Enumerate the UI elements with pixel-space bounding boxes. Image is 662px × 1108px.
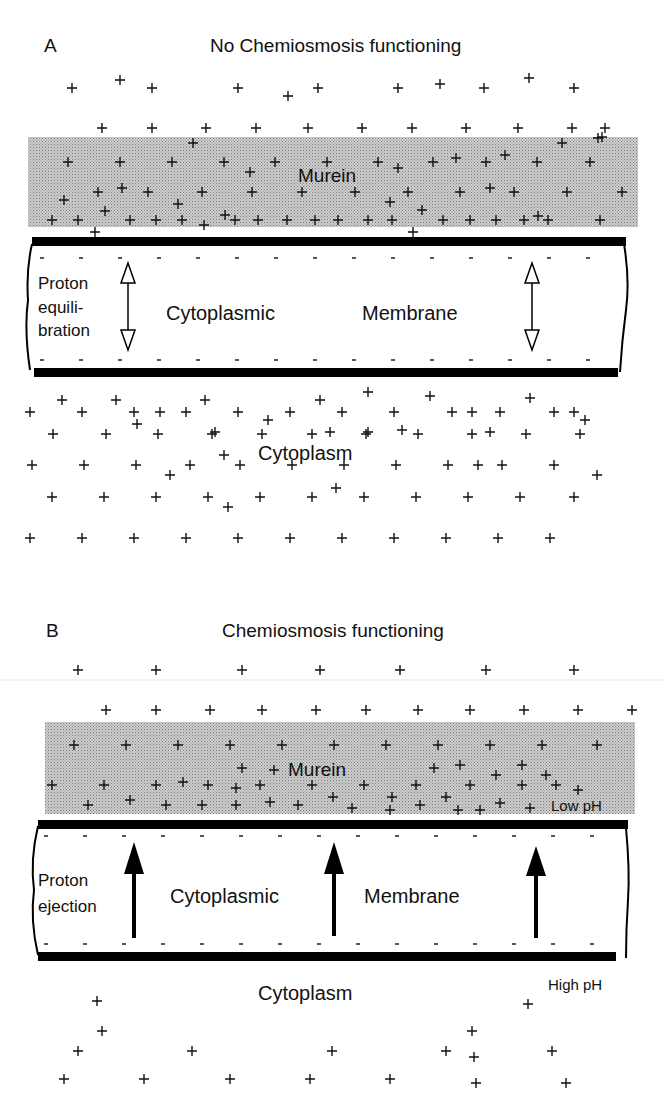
proton-plus-icon bbox=[425, 391, 435, 401]
proton-plus-icon bbox=[411, 492, 421, 502]
proton-plus-icon bbox=[447, 407, 457, 417]
proton-plus-icon bbox=[580, 415, 590, 425]
proton-plus-icon bbox=[25, 533, 35, 543]
proton-plus-icon bbox=[97, 123, 107, 133]
proton-plus-icon bbox=[151, 492, 161, 502]
membrane-label-cytoplasmic: Cytoplasmic bbox=[170, 885, 279, 907]
proton-plus-icon bbox=[77, 533, 87, 543]
proton-plus-icon bbox=[497, 460, 507, 470]
proton-plus-icon bbox=[627, 705, 637, 715]
proton-plus-icon bbox=[79, 460, 89, 470]
proton-plus-icon bbox=[592, 470, 602, 480]
proton-plus-icon bbox=[413, 705, 423, 715]
proton-plus-icon bbox=[200, 395, 210, 405]
panel-b: B Chemiosmosis functioning Murein Low pH… bbox=[33, 620, 637, 1088]
proton-plus-icon bbox=[569, 665, 579, 675]
proton-plus-icon bbox=[523, 999, 533, 1009]
proton-plus-icon bbox=[59, 1074, 69, 1084]
murein-label: Murein bbox=[288, 759, 346, 780]
murein-label: Murein bbox=[298, 165, 356, 186]
proton-plus-icon bbox=[521, 429, 531, 439]
proton-plus-icon bbox=[413, 429, 423, 439]
proton-plus-icon bbox=[101, 705, 111, 715]
proton-plus-icon bbox=[48, 429, 58, 439]
proton-plus-icon bbox=[235, 460, 245, 470]
proton-plus-icon bbox=[285, 407, 295, 417]
double-arrow-icon bbox=[121, 263, 135, 350]
proton-plus-icon bbox=[469, 1052, 479, 1062]
proton-plus-icon bbox=[147, 123, 157, 133]
cytoplasmic-membrane bbox=[33, 820, 629, 961]
protons-outside bbox=[73, 665, 637, 715]
proton-plus-icon bbox=[307, 492, 317, 502]
proton-plus-icon bbox=[327, 1046, 337, 1056]
proton-plus-icon bbox=[111, 395, 121, 405]
proton-plus-icon bbox=[385, 1074, 395, 1084]
proton-plus-icon bbox=[485, 427, 495, 437]
up-arrow-icon bbox=[526, 846, 546, 938]
proton-plus-icon bbox=[569, 83, 579, 93]
proton-plus-icon bbox=[461, 123, 471, 133]
proton-plus-icon bbox=[519, 705, 529, 715]
proton-plus-icon bbox=[325, 427, 335, 437]
proton-plus-icon bbox=[132, 419, 142, 429]
proton-plus-icon bbox=[257, 705, 267, 715]
panel-a-letter: A bbox=[44, 35, 57, 56]
proton-plus-icon bbox=[90, 227, 100, 237]
high-ph-label: High pH bbox=[548, 976, 602, 993]
proton-plus-icon bbox=[115, 75, 125, 85]
proton-plus-icon bbox=[357, 123, 367, 133]
proton-plus-icon bbox=[337, 407, 347, 417]
proton-plus-icon bbox=[151, 705, 161, 715]
cytoplasm-label: Cytoplasm bbox=[258, 442, 352, 464]
panel-b-title: Chemiosmosis functioning bbox=[222, 620, 444, 641]
proton-plus-icon bbox=[315, 395, 325, 405]
proton-plus-icon bbox=[441, 1046, 451, 1056]
proton-plus-icon bbox=[569, 407, 579, 417]
proton-plus-icon bbox=[92, 996, 102, 1006]
proton-plus-icon bbox=[547, 1046, 557, 1056]
proton-plus-icon bbox=[131, 460, 141, 470]
proton-plus-icon bbox=[393, 83, 403, 93]
cytoplasm-label: Cytoplasm bbox=[258, 982, 352, 1004]
proton-plus-icon bbox=[600, 123, 610, 133]
proton-plus-icon bbox=[389, 533, 399, 543]
proton-plus-icon bbox=[181, 407, 191, 417]
proton-plus-icon bbox=[545, 533, 555, 543]
proton-plus-icon bbox=[389, 407, 399, 417]
proton-plus-icon bbox=[395, 665, 405, 675]
proton-plus-icon bbox=[151, 665, 161, 675]
proton-plus-icon bbox=[257, 429, 267, 439]
proton-plus-icon bbox=[283, 91, 293, 101]
side-label-line-2: equili- bbox=[38, 298, 83, 317]
panel-a-title: No Chemiosmosis functioning bbox=[210, 35, 461, 56]
side-label-line-1: Proton bbox=[38, 871, 88, 890]
proton-plus-icon bbox=[465, 705, 475, 715]
proton-plus-icon bbox=[569, 492, 579, 502]
proton-plus-icon bbox=[493, 533, 503, 543]
proton-plus-icon bbox=[467, 407, 477, 417]
membrane-label-membrane: Membrane bbox=[362, 302, 458, 324]
proton-plus-icon bbox=[165, 470, 175, 480]
up-arrow-icon bbox=[324, 842, 344, 936]
protons-cytoplasm bbox=[59, 996, 571, 1088]
proton-plus-icon bbox=[525, 393, 535, 403]
side-label-line-2: ejection bbox=[38, 897, 97, 916]
proton-plus-icon bbox=[495, 407, 505, 417]
proton-plus-icon bbox=[57, 395, 67, 405]
cytoplasmic-membrane bbox=[26, 237, 627, 377]
proton-plus-icon bbox=[263, 415, 273, 425]
proton-plus-icon bbox=[391, 460, 401, 470]
proton-plus-icon bbox=[471, 1078, 481, 1088]
proton-plus-icon bbox=[515, 492, 525, 502]
proton-plus-icon bbox=[233, 533, 243, 543]
proton-plus-icon bbox=[223, 502, 233, 512]
proton-plus-icon bbox=[219, 450, 229, 460]
proton-plus-icon bbox=[233, 407, 243, 417]
proton-plus-icon bbox=[233, 83, 243, 93]
proton-plus-icon bbox=[187, 1046, 197, 1056]
proton-plus-icon bbox=[129, 533, 139, 543]
protons-outside bbox=[67, 73, 610, 143]
proton-plus-icon bbox=[25, 407, 35, 417]
proton-plus-icon bbox=[363, 427, 373, 437]
